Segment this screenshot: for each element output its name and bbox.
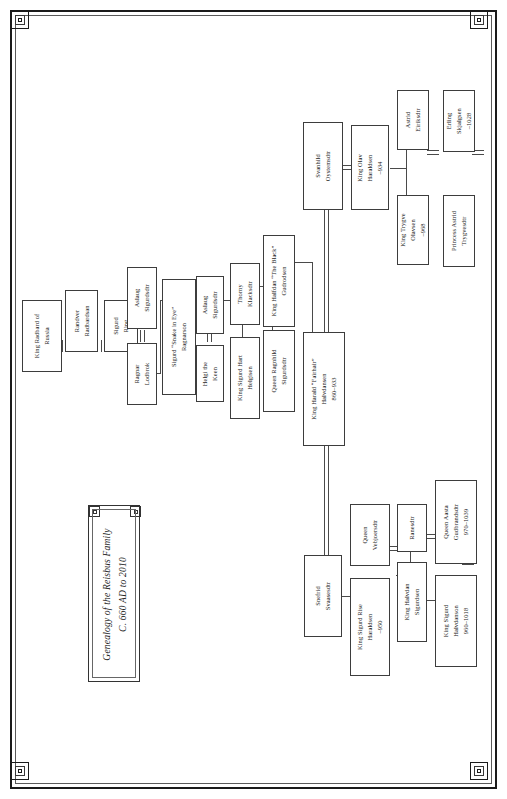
node-name-line: Sigurdsdtr <box>143 284 151 312</box>
node-ranesdtr[interactable]: Ranesdtr <box>397 504 427 552</box>
node-dates: 860–933 <box>330 377 338 400</box>
node-name-line: Queen Aasta <box>442 505 450 539</box>
node-astrid-eiriksdtr[interactable]: Astrid Eiriksdtr <box>397 90 429 150</box>
node-name-line: Ranesdtr <box>408 516 416 540</box>
node-name-line: Oystemsdtr <box>324 151 332 181</box>
chart-title-cartouche: Genealogy of the Reisbus Family C. 660 A… <box>88 505 140 682</box>
node-name-line: Aslaug <box>133 289 141 308</box>
border-corner-bottom-left-icon <box>11 762 37 788</box>
node-name-line: King Halfdan “The Black” <box>270 245 278 316</box>
node-name-line: King Radbard of <box>33 314 41 358</box>
node-snefrid-svaasesdtr[interactable]: Snefrid Svaasesdtr <box>304 555 342 637</box>
node-name-line: Russia <box>43 327 51 345</box>
genealogy-page: Genealogy of the Reisbus Family C. 660 A… <box>0 0 507 799</box>
node-name-line: Sigurdsen <box>413 589 421 615</box>
node-aslaug-sigurdsdtr-1[interactable]: Aslaug Sigurdsdtr <box>127 267 157 329</box>
node-name-line: King Sigurd Rise <box>356 604 364 650</box>
node-name-line: Haraldsen <box>366 614 374 641</box>
node-name-line: Halvdanson <box>452 605 460 637</box>
node-king-halvdan-sigurdsen[interactable]: King Halvdan Sigurdsen <box>397 562 427 642</box>
node-name-line: Svanhild <box>314 154 322 178</box>
node-princess-astrid-trygvesdtr[interactable]: Princess Astrid Trygvesdtr <box>443 195 475 267</box>
node-name-line: Lodbrok <box>143 363 151 386</box>
node-name-line: Trygvesdtr <box>460 217 468 246</box>
node-king-sigurd-rise-haraldsen[interactable]: King Sigurd Rise Haraldsen –950 <box>350 578 390 676</box>
node-name-line: Thorny <box>236 284 244 303</box>
node-name-line: King Sigurd <box>442 605 450 638</box>
node-name-line: Queen Ragnhild <box>270 349 278 392</box>
node-name-line: Queen <box>361 526 369 543</box>
node-queen-aasta-gudbrandsdtr[interactable]: Queen Aasta Gudbrandsdtr 970–1039 <box>435 480 477 564</box>
node-king-sigurd-halvdanson[interactable]: King Sigurd Halvdanson 960–1018 <box>435 575 477 667</box>
node-queen-vebjoersdtr[interactable]: Queen Vebjoersdtr <box>350 504 390 566</box>
node-name-line: Helgi the <box>201 361 209 386</box>
node-name-line: King Harald “Fairhair” <box>310 358 318 419</box>
node-king-halfdan-the-black-gudrodsen[interactable]: King Halfdan “The Black” Gudrodsen <box>263 235 295 327</box>
node-name-line: Aslaug <box>201 296 209 315</box>
border-corner-bottom-right-icon <box>470 762 496 788</box>
node-name-line: Halvdansen <box>320 373 328 404</box>
union-connector <box>427 150 439 155</box>
node-king-radbard-of-russia[interactable]: King Radbard of Russia <box>22 300 62 372</box>
chart-title: Genealogy of the Reisbus Family C. 660 A… <box>89 506 141 683</box>
node-name-line: King Sigurd Hart <box>236 355 244 401</box>
node-name-line: Snefrid <box>314 586 322 606</box>
node-name-line: Princess Astrid <box>450 211 458 251</box>
node-name-line: Keen <box>211 367 219 381</box>
descent-connector <box>390 168 406 169</box>
node-name-line: King Olav <box>356 154 364 182</box>
node-ragnar-lodbrok[interactable]: Ragnar Lodbrok <box>127 343 157 405</box>
chart-title-line1: Genealogy of the Reisbus Family <box>102 528 112 660</box>
node-dates: 970–1039 <box>462 509 470 535</box>
node-name-line: Randver <box>73 310 81 332</box>
border-corner-top-right-icon <box>470 11 496 37</box>
descent-connector <box>324 430 329 560</box>
descent-connector <box>160 300 161 374</box>
node-thorny-klacksdtr[interactable]: Thorny Klacksdtr <box>230 263 260 325</box>
node-dates: –968 <box>419 223 427 236</box>
node-name-line: Gudbrandsdtr <box>452 504 460 540</box>
node-name-line: Haraldsen <box>366 154 374 181</box>
node-name-line: Sigurdsdtr <box>280 357 288 385</box>
node-name-line: Ragnarson <box>180 323 188 351</box>
node-name-line: Sigurd “Snake in Eye” <box>170 307 178 367</box>
node-dates: –1028 <box>465 113 473 129</box>
node-name-line: Ragnar <box>133 364 141 383</box>
union-connector <box>140 330 145 342</box>
node-name-line: Erling <box>445 113 453 130</box>
node-king-olav-haraldsen[interactable]: King Olav Haraldsen –934 <box>351 125 389 210</box>
node-name-line: Eiriksdtr <box>414 108 422 131</box>
border-corner-top-left-icon <box>11 11 37 37</box>
node-name-line: Skjalgsen <box>455 108 463 134</box>
node-name-line: Gudrodsen <box>280 267 288 296</box>
chart-title-line2: C. 660 AD to 2010 <box>118 557 128 632</box>
node-name-line: King Halvdan <box>403 583 411 620</box>
node-king-harald-fairhair-halvdansen[interactable]: King Harald “Fairhair” Halvdansen 860–93… <box>303 332 345 446</box>
node-name-line: Svaasesdtr <box>324 582 332 610</box>
node-king-sigurd-hart-helgisen[interactable]: King Sigurd Hart Helgisen <box>230 337 260 419</box>
node-dates: 960–1018 <box>462 608 470 634</box>
node-name-line: Sigurd <box>112 317 120 335</box>
node-name-line: Vebjoersdtr <box>371 520 379 551</box>
node-name-line: Olavsen <box>409 219 417 241</box>
node-svanhild-oystemsdtr[interactable]: Svanhild Oystemsdtr <box>303 122 343 210</box>
node-name-line: Sigurdsdtr <box>211 291 219 319</box>
node-name-line: Klacksdtr <box>246 281 254 307</box>
node-name-line: Helgisen <box>246 366 254 390</box>
node-queen-ragnhild-sigurdsdtr[interactable]: Queen Ragnhild Sigurdsdtr <box>263 330 295 412</box>
node-name-line: Astrid <box>404 112 412 129</box>
node-name-line: King Trygve <box>399 213 407 247</box>
node-sigurd-snake-in-eye-ragnarson[interactable]: Sigurd “Snake in Eye” Ragnarson <box>162 279 196 395</box>
node-erling-skjalgsen[interactable]: Erling Skjalgsen –1028 <box>443 90 475 152</box>
node-helgi-the-keen[interactable]: Helgi the Keen <box>196 345 224 402</box>
node-dates: –950 <box>376 620 384 633</box>
node-aslaug-sigurdsdtr-2[interactable]: Aslaug Sigurdsdtr <box>196 276 224 334</box>
node-name-line: Radbardsan <box>83 305 91 336</box>
node-dates: –934 <box>376 161 384 174</box>
node-king-trygve-olavsen[interactable]: King Trygve Olavsen –968 <box>397 195 429 265</box>
node-randver-radbardsan[interactable]: Randver Radbardsan <box>65 290 98 352</box>
